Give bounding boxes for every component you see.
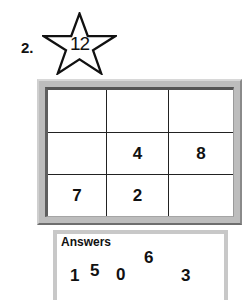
grid-cell-r3-c3[interactable]	[169, 175, 233, 216]
grid-cell-r1-c3[interactable]	[169, 90, 233, 133]
grid-cell-r1-c2[interactable]	[107, 90, 169, 133]
answer-option[interactable]: 1	[70, 266, 79, 286]
answers-box: Answers 1 5 0 6 3	[53, 230, 228, 300]
answers-title: Answers	[61, 235, 111, 249]
puzzle-frame: 4 8 7 2	[37, 79, 242, 225]
grid-cell-r3-c2: 2	[107, 175, 169, 216]
answer-option[interactable]: 3	[181, 266, 190, 286]
puzzle-grid-container: 4 8 7 2	[45, 87, 234, 217]
grid-cell-r3-c1: 7	[48, 175, 107, 216]
answer-option[interactable]: 5	[90, 261, 99, 281]
star-target-value: 12	[42, 33, 117, 55]
grid-cell-r2-c3: 8	[169, 133, 233, 175]
answer-option[interactable]: 0	[116, 265, 125, 285]
puzzle-grid: 4 8 7 2	[48, 90, 233, 216]
grid-cell-r2-c1[interactable]	[48, 133, 107, 175]
problem-number: 2.	[21, 39, 34, 56]
answer-option[interactable]: 6	[144, 248, 153, 268]
grid-cell-r1-c1[interactable]	[48, 90, 107, 133]
grid-cell-r2-c2: 4	[107, 133, 169, 175]
